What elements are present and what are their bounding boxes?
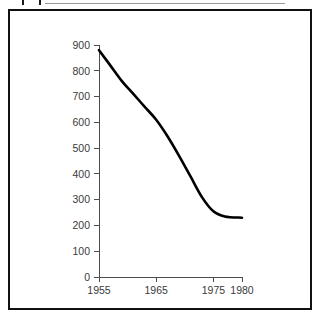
x-tick-label-1955: 1955 <box>87 284 111 296</box>
y-tick-label-900: 900 <box>72 39 90 51</box>
figure-frame: 0100200300400500600700800900 19551965197… <box>8 9 312 310</box>
y-tick-label-700: 700 <box>72 90 90 102</box>
data-line-series-1 <box>99 50 242 218</box>
x-tick-label-1980: 1980 <box>230 284 254 296</box>
checkbox-icon[interactable] <box>22 0 41 5</box>
y-tick-label-300: 300 <box>72 193 90 205</box>
x-tick-label-1975: 1975 <box>202 284 226 296</box>
y-tick-label-0: 0 <box>84 271 90 283</box>
y-tick-label-500: 500 <box>72 142 90 154</box>
y-tick-label-200: 200 <box>72 219 90 231</box>
chart-svg: 0100200300400500600700800900 19551965197… <box>10 11 314 312</box>
header-divider <box>45 3 285 4</box>
document-header: Number of ... <box>0 0 323 5</box>
x-axis: 1955196519751980 <box>87 277 254 296</box>
y-tick-label-100: 100 <box>72 245 90 257</box>
y-tick-label-800: 800 <box>72 65 90 77</box>
y-tick-label-400: 400 <box>72 168 90 180</box>
line-chart: 0100200300400500600700800900 19551965197… <box>10 11 314 312</box>
y-tick-label-600: 600 <box>72 116 90 128</box>
y-axis: 0100200300400500600700800900 <box>72 39 99 283</box>
x-tick-label-1965: 1965 <box>145 284 169 296</box>
document-header-title: Number of ... <box>48 0 124 1</box>
